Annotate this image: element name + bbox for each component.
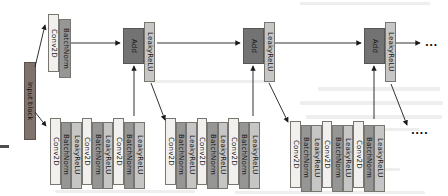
- batchnorm-block: BatchNorm: [301, 125, 312, 192]
- leakyrelu-label: LeakyReLU: [136, 135, 143, 175]
- batchnorm-block: BatchNorm: [239, 122, 250, 189]
- conv2d-label: Conv2D: [167, 137, 174, 166]
- batchnorm-block: BatchNorm: [92, 122, 103, 189]
- scan-noise: [300, 2, 430, 5]
- leakyrelu-block: LeakyReLU: [144, 22, 155, 82]
- leakyrelu-label: LeakyReLU: [188, 135, 195, 175]
- conv2d-block: Conv2D: [48, 14, 59, 72]
- leakyrelu-block: LeakyReLU: [343, 125, 354, 192]
- add-block: Add: [364, 28, 385, 64]
- conv2d-label: Conv2D: [230, 137, 237, 166]
- conv2d-label: Conv2D: [355, 140, 362, 169]
- leakyrelu-block: LeakyReLU: [385, 22, 396, 82]
- add-label: Add: [250, 39, 257, 53]
- leakyrelu-block: LeakyReLU: [249, 122, 260, 189]
- batchnorm-block: BatchNorm: [332, 125, 343, 192]
- leakyrelu-label: LeakyReLU: [73, 135, 80, 175]
- residual-stack-1: Conv2D BatchNorm LeakyReLU Conv2D BatchN…: [50, 118, 145, 189]
- conv2d-block: Conv2D: [197, 118, 208, 185]
- add-label: Add: [130, 39, 137, 53]
- batchnorm-label: BatchNorm: [209, 134, 216, 175]
- batchnorm-block: BatchNorm: [176, 122, 187, 189]
- leakyrelu-block: LeakyReLU: [311, 125, 322, 192]
- add-label: Add: [371, 39, 378, 53]
- leakyrelu-block: LeakyReLU: [134, 122, 145, 189]
- scan-margin-mark: [0, 145, 9, 148]
- leakyrelu-block: LeakyReLU: [264, 22, 275, 82]
- scan-noise: [300, 101, 443, 105]
- batchnorm-label: BatchNorm: [365, 137, 372, 178]
- batchnorm-label: BatchNorm: [125, 134, 132, 175]
- conv2d-label: Conv2D: [198, 137, 205, 166]
- leakyrelu-label: LeakyReLU: [219, 135, 226, 175]
- conv2d-label: Conv2D: [50, 29, 57, 58]
- merge-node-3: Add LeakyReLU: [364, 22, 396, 82]
- conv2d-label: Conv2D: [323, 140, 330, 169]
- batchnorm-label: BatchNorm: [94, 134, 101, 175]
- batchnorm-label: BatchNorm: [177, 134, 184, 175]
- conv2d-block: Conv2D: [82, 118, 93, 185]
- batchnorm-label: BatchNorm: [62, 28, 69, 69]
- batchnorm-block: BatchNorm: [124, 122, 135, 189]
- leakyrelu-label: LeakyReLU: [104, 135, 111, 175]
- residual-stack-3: Conv2D BatchNorm LeakyReLU Conv2D BatchN…: [290, 121, 385, 192]
- conv2d-label: Conv2D: [115, 137, 122, 166]
- conv2d-block: Conv2D: [353, 121, 364, 188]
- batchnorm-block: BatchNorm: [207, 122, 218, 189]
- merge-node-1: Add LeakyReLU: [123, 22, 155, 82]
- conv2d-block: Conv2D: [290, 121, 301, 188]
- arrow-input-to-stack1: [35, 112, 46, 126]
- conv2d-block: Conv2D: [50, 118, 61, 185]
- add-block: Add: [123, 28, 144, 64]
- leakyrelu-block: LeakyReLU: [71, 122, 82, 189]
- conv2d-block: Conv2D: [228, 118, 239, 185]
- continuation-dots-bottom: ....: [411, 126, 428, 136]
- batchnorm-block: BatchNorm: [59, 19, 71, 78]
- residual-stack-2: Conv2D BatchNorm LeakyReLU Conv2D BatchN…: [165, 118, 260, 189]
- scan-noise: [318, 87, 440, 91]
- conv2d-label: Conv2D: [52, 137, 59, 166]
- leakyrelu-block: LeakyReLU: [186, 122, 197, 189]
- leakyrelu-block: LeakyReLU: [218, 122, 229, 189]
- leakyrelu-label: LeakyReLU: [251, 135, 258, 175]
- conv2d-block: Conv2D: [113, 118, 124, 185]
- leakyrelu-label: LeakyReLU: [376, 138, 383, 178]
- leakyrelu-label: LeakyReLU: [313, 138, 320, 178]
- batchnorm-label: BatchNorm: [62, 134, 69, 175]
- shortcut-branch: Conv2D BatchNorm: [48, 14, 71, 78]
- leakyrelu-label: LeakyReLU: [146, 32, 153, 72]
- leakyrelu-label: LeakyReLU: [266, 32, 273, 72]
- input-block: Input block: [24, 62, 36, 140]
- arrow-merge1-to-stack2: [151, 83, 165, 120]
- batchnorm-label: BatchNorm: [302, 137, 309, 178]
- batchnorm-block: BatchNorm: [364, 125, 375, 192]
- input-block-label: Input block: [27, 82, 34, 120]
- conv2d-block: Conv2D: [165, 118, 176, 185]
- leakyrelu-block: LeakyReLU: [103, 122, 114, 189]
- arrow-merge2-to-stack3: [269, 83, 288, 122]
- scan-noise: [55, 190, 195, 193]
- conv2d-label: Conv2D: [83, 137, 90, 166]
- batchnorm-block: BatchNorm: [61, 122, 72, 189]
- add-block: Add: [243, 28, 264, 64]
- leakyrelu-block: LeakyReLU: [374, 125, 385, 192]
- continuation-dots-right: ...: [425, 38, 438, 48]
- merge-node-2: Add LeakyReLU: [243, 22, 275, 82]
- leakyrelu-label: LeakyReLU: [344, 138, 351, 178]
- arrow-input-to-shortcut: [35, 25, 45, 67]
- conv2d-block: Conv2D: [322, 121, 333, 188]
- leakyrelu-label: LeakyReLU: [387, 32, 394, 72]
- conv2d-label: Conv2D: [292, 140, 299, 169]
- batchnorm-label: BatchNorm: [334, 137, 341, 178]
- batchnorm-label: BatchNorm: [240, 134, 247, 175]
- scan-noise: [306, 115, 442, 119]
